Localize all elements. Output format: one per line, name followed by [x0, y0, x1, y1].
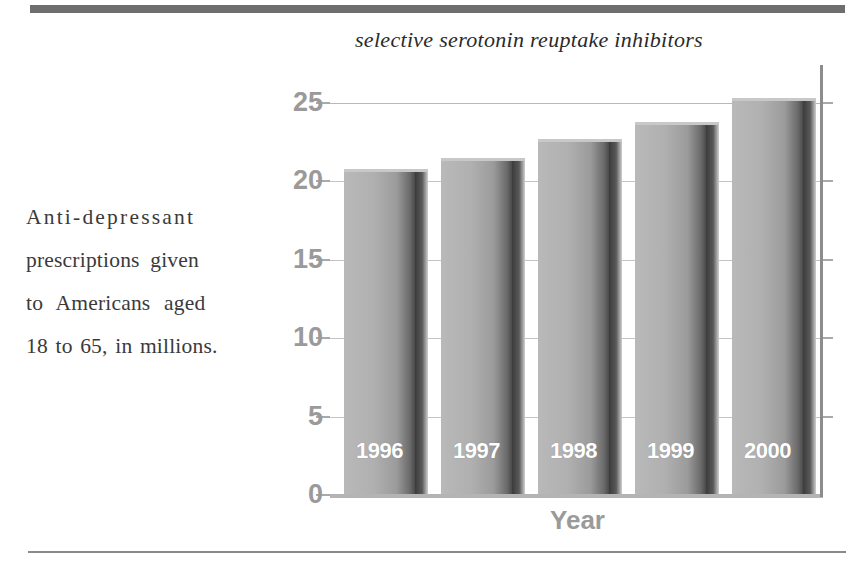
bar-value-label: 1998	[538, 438, 609, 464]
bar-side-face	[706, 122, 719, 495]
bar-2000: 2000	[732, 98, 816, 495]
caption-line-3: to Americans aged	[26, 282, 288, 325]
bar-1996: 1996	[344, 169, 428, 495]
y-axis-tick-label: 15	[263, 246, 323, 273]
bar-value-label: 1999	[635, 438, 706, 464]
y-axis-tick-label: 10	[263, 324, 323, 351]
bar-value-label: 1997	[441, 438, 512, 464]
y-axis-tick-label: 0	[263, 481, 323, 508]
bar-side-face	[609, 139, 622, 495]
bar-1997: 1997	[441, 158, 525, 495]
bar-side-face	[415, 169, 428, 495]
top-divider-rule	[30, 5, 845, 13]
bar-top-face	[441, 158, 525, 161]
y-axis-tick-label: 20	[263, 167, 323, 194]
plot-area: 2520151050 19961997199819992000	[330, 60, 825, 500]
bar-top-face	[732, 98, 816, 101]
caption-line-4: 18 to 65, in millions.	[26, 325, 288, 368]
bottom-divider-rule	[28, 551, 846, 553]
bar-1999: 1999	[635, 122, 719, 495]
bar-front-face	[732, 98, 803, 495]
x-axis-label: Year	[330, 505, 825, 536]
x-axis-line	[330, 494, 823, 498]
caption-line-2: prescriptions given	[26, 239, 288, 282]
bar-value-label: 2000	[732, 438, 803, 464]
bar-top-face	[538, 139, 622, 142]
bar-top-face	[635, 122, 719, 125]
chart-title: selective serotonin reuptake inhibitors	[355, 27, 835, 53]
y-axis-tick-label: 25	[263, 89, 323, 116]
bar-side-face	[803, 98, 816, 495]
bar-top-face	[344, 169, 428, 172]
bar-1998: 1998	[538, 139, 622, 495]
bar-side-face	[512, 158, 525, 495]
figure-container: selective serotonin reuptake inhibitors …	[0, 0, 856, 578]
y-axis-tick-label: 5	[263, 403, 323, 430]
chart-caption: Anti-depressant prescriptions given to A…	[26, 196, 288, 368]
caption-line-1: Anti-depressant	[26, 196, 288, 239]
y-axis-line-right	[820, 65, 823, 497]
bar-value-label: 1996	[344, 438, 415, 464]
